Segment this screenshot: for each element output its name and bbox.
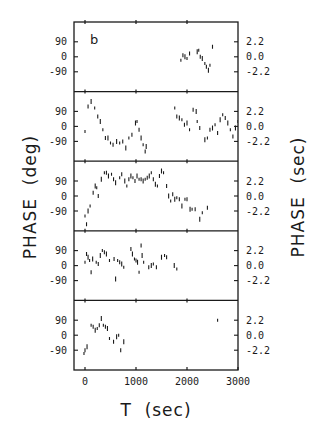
y-tick-label-right: 2.2 <box>246 106 264 117</box>
y-tick-label-left: 0 <box>61 330 67 341</box>
y-axis-title-right: PHASE (sec) <box>288 137 308 258</box>
panels: 902.200.0-90-2.2902.200.0-90-2.2902.200.… <box>49 20 270 356</box>
y-tick-label-right: 0.0 <box>246 191 264 202</box>
y-tick-label-right: 2.2 <box>246 245 264 256</box>
y-tick-label-left: 90 <box>55 245 67 256</box>
y-tick-label-left: -90 <box>49 66 67 77</box>
y-tick-label-left: 90 <box>55 36 67 47</box>
data-points <box>85 244 177 282</box>
y-tick-label-right: 0.0 <box>246 121 264 132</box>
y-tick-label-left: -90 <box>49 275 67 286</box>
x-axis-title: T (sec) <box>119 400 191 420</box>
y-tick-label-left: 90 <box>55 106 67 117</box>
y-tick-label-right: 0.0 <box>246 330 264 341</box>
y-tick-label-left: 90 <box>55 315 67 326</box>
panel-letter: b <box>90 32 98 47</box>
panel-2: 902.200.0-90-2.2 <box>49 90 270 154</box>
y-tick-label-left: -90 <box>49 136 67 147</box>
y-tick-label-right: 0.0 <box>246 260 264 271</box>
panel-1: 902.200.0-90-2.2 <box>49 20 270 77</box>
y-tick-label-right: 0.0 <box>246 51 264 62</box>
panel-3: 902.200.0-90-2.2 <box>49 159 270 226</box>
y-tick-label-right: -2.2 <box>246 275 270 286</box>
x-tick-label: 1000 <box>124 376 148 387</box>
y-tick-label-left: 0 <box>61 51 67 62</box>
y-tick-label-right: 2.2 <box>246 36 264 47</box>
y-tick-label-right: 2.2 <box>246 315 264 326</box>
y-tick-label-left: 0 <box>61 191 67 202</box>
data-points <box>85 169 207 227</box>
y-tick-label-right: -2.2 <box>246 66 270 77</box>
data-points <box>181 45 213 73</box>
y-tick-label-left: 90 <box>55 176 67 187</box>
phase-plot: 902.200.0-90-2.2902.200.0-90-2.2902.200.… <box>0 0 318 433</box>
x-tick-label: 2000 <box>175 376 199 387</box>
y-tick-label-left: 0 <box>61 121 67 132</box>
y-tick-label-left: -90 <box>49 345 67 356</box>
panel-4: 902.200.0-90-2.2 <box>49 229 270 286</box>
panel-5: 902.200.0-90-2.2 <box>49 298 270 355</box>
y-axis-title-left: PHASE (deg) <box>20 135 40 259</box>
y-tick-label-left: 0 <box>61 260 67 271</box>
x-tick-label: 0 <box>82 376 88 387</box>
data-points <box>85 99 241 153</box>
y-tick-label-right: 2.2 <box>246 176 264 187</box>
y-tick-label-right: -2.2 <box>246 136 270 147</box>
y-tick-label-right: -2.2 <box>246 206 270 217</box>
x-tick-label: 3000 <box>226 376 250 387</box>
data-points <box>84 316 218 355</box>
y-tick-label-left: -90 <box>49 206 67 217</box>
y-tick-label-right: -2.2 <box>246 345 270 356</box>
